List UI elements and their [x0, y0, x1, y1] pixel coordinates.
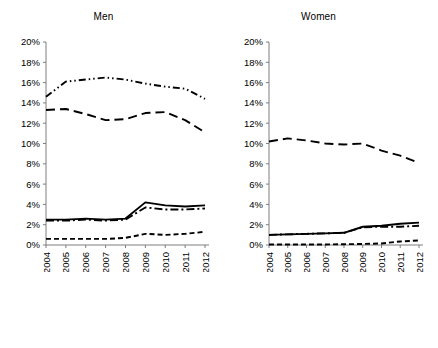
svg-text:2%: 2%: [26, 219, 40, 230]
svg-text:20%: 20%: [244, 36, 264, 47]
svg-text:2008: 2008: [120, 252, 131, 272]
svg-text:14%: 14%: [21, 97, 41, 108]
svg-text:2004: 2004: [264, 252, 275, 272]
series-line-jsa-55-59: [269, 138, 419, 162]
svg-text:2009: 2009: [357, 252, 368, 272]
svg-text:2011: 2011: [395, 252, 406, 272]
svg-text:8%: 8%: [249, 158, 263, 169]
plot-svg-women: 0%2%4%6%8%10%12%14%16%18%20%200420052006…: [219, 0, 438, 272]
svg-text:20%: 20%: [21, 36, 41, 47]
svg-text:2005: 2005: [282, 252, 293, 272]
svg-text:18%: 18%: [244, 57, 264, 68]
svg-text:2012: 2012: [200, 252, 211, 272]
svg-text:2006: 2006: [80, 252, 91, 272]
chart-panel-women: Women 0%2%4%6%8%10%12%14%16%18%20%200420…: [219, 0, 438, 272]
svg-text:6%: 6%: [249, 179, 263, 190]
series-line-jsa-55-59: [46, 109, 205, 132]
svg-text:2008: 2008: [339, 252, 350, 272]
svg-text:0%: 0%: [249, 239, 263, 250]
chart-panels: Men 0%2%4%6%8%10%12%14%16%18%20%20042005…: [0, 0, 438, 272]
svg-text:8%: 8%: [26, 158, 40, 169]
svg-text:12%: 12%: [244, 118, 264, 129]
svg-text:2005: 2005: [60, 252, 71, 272]
svg-text:2011: 2011: [180, 252, 191, 272]
plot-area-men: 0%2%4%6%8%10%12%14%16%18%20%200420052006…: [0, 0, 219, 272]
svg-text:2010: 2010: [160, 252, 171, 272]
svg-text:0%: 0%: [26, 239, 40, 250]
plot-svg-men: 0%2%4%6%8%10%12%14%16%18%20%200420052006…: [0, 0, 219, 272]
series-line-pc-65-69: [46, 78, 205, 99]
svg-text:2007: 2007: [320, 252, 331, 272]
series-line-jsa-60-64: [46, 232, 205, 239]
svg-text:10%: 10%: [244, 138, 264, 149]
svg-text:2006: 2006: [301, 252, 312, 272]
svg-text:2009: 2009: [140, 252, 151, 272]
chart-panel-men: Men 0%2%4%6%8%10%12%14%16%18%20%20042005…: [0, 0, 219, 272]
plot-area-women: 0%2%4%6%8%10%12%14%16%18%20%200420052006…: [219, 0, 438, 272]
svg-text:2%: 2%: [249, 219, 263, 230]
svg-text:2007: 2007: [100, 252, 111, 272]
svg-text:2004: 2004: [41, 252, 52, 272]
svg-text:16%: 16%: [21, 77, 41, 88]
chart-legends: JSA 50-54JSA 55-59JSA 60-64PC 60-64PC 65…: [0, 272, 438, 348]
series-line-pc-60-64: [269, 226, 419, 235]
svg-text:16%: 16%: [244, 77, 264, 88]
svg-text:4%: 4%: [249, 199, 263, 210]
svg-text:12%: 12%: [21, 118, 41, 129]
series-line-jsa-50-54: [46, 202, 205, 219]
svg-text:2010: 2010: [376, 252, 387, 272]
svg-text:4%: 4%: [26, 199, 40, 210]
svg-text:6%: 6%: [26, 179, 40, 190]
svg-text:18%: 18%: [21, 57, 41, 68]
svg-text:14%: 14%: [244, 97, 264, 108]
series-line-jsa-60-64: [269, 240, 419, 244]
svg-text:10%: 10%: [21, 138, 41, 149]
svg-text:2012: 2012: [414, 252, 425, 272]
